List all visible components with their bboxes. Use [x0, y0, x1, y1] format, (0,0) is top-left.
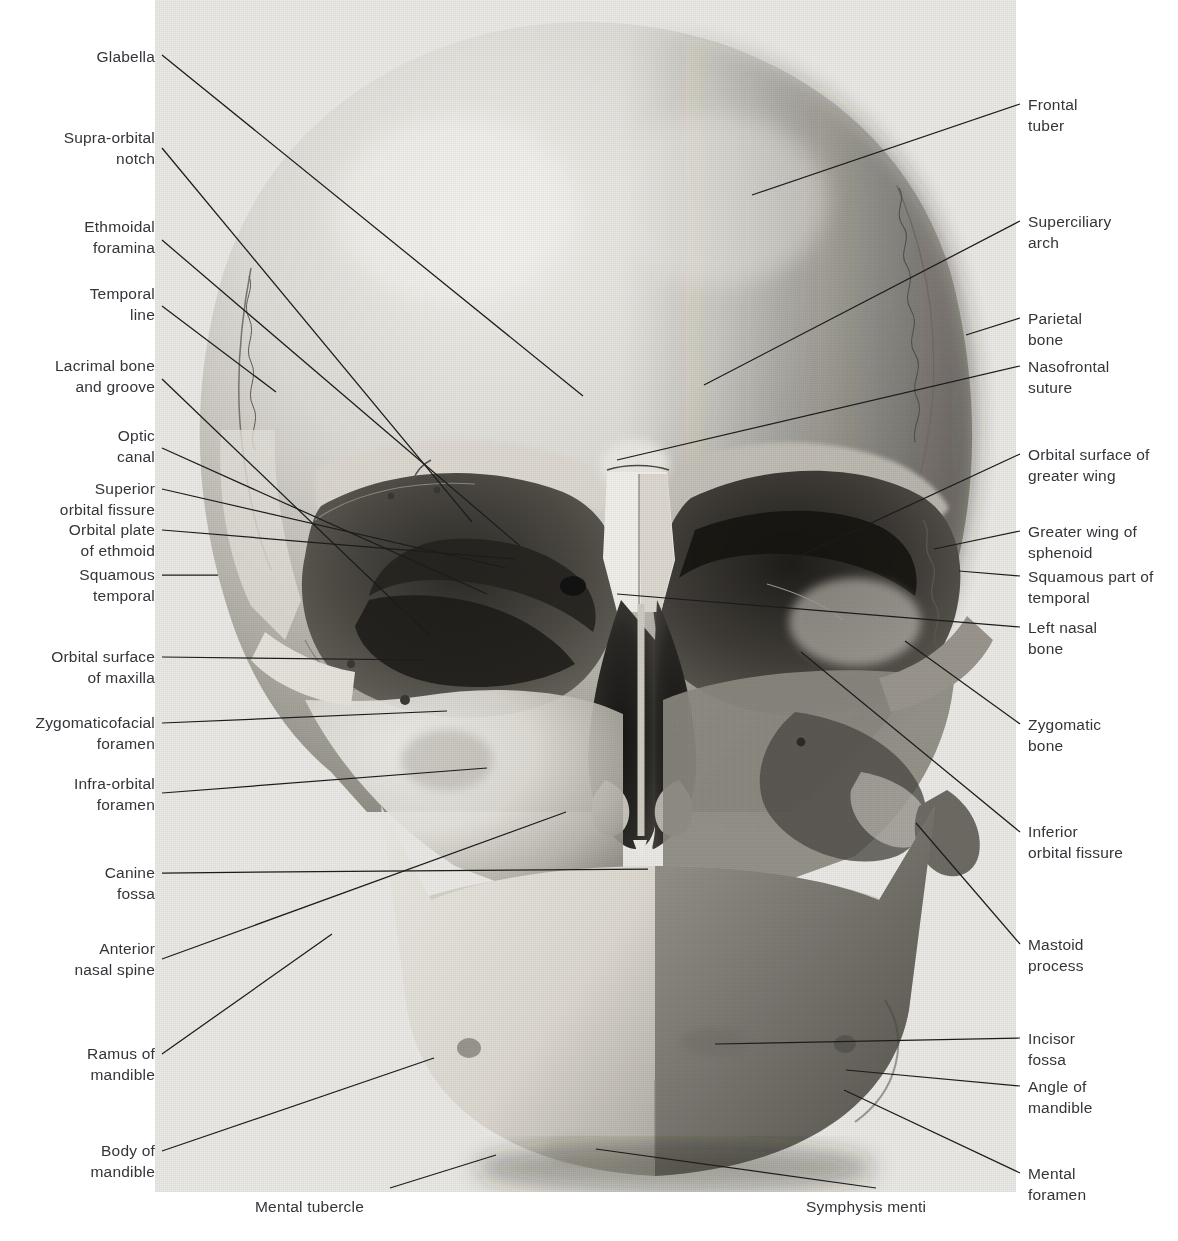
skull-photograph: [155, 0, 1016, 1192]
label-left-nasal-bone: Left nasal bone: [1028, 617, 1097, 659]
label-ramus-of-mandible: Ramus of mandible: [87, 1043, 155, 1085]
label-greater-wing-of-sphenoid: Greater wing of sphenoid: [1028, 521, 1137, 563]
label-frontal-tuber: Frontal tuber: [1028, 94, 1078, 136]
label-inferior-orbital-fissure: Inferior orbital fissure: [1028, 821, 1123, 863]
label-parietal-bone: Parietal bone: [1028, 308, 1082, 350]
label-lacrimal-bone-and-groove: Lacrimal bone and groove: [55, 355, 155, 397]
label-orbital-surface-of-greater-wing: Orbital surface of greater wing: [1028, 444, 1150, 486]
label-supra-orbital-notch: Supra-orbital notch: [64, 127, 155, 169]
label-infra-orbital-foramen: Infra-orbital foramen: [74, 773, 155, 815]
label-zygomaticofacial-foramen: Zygomaticofacial foramen: [36, 712, 156, 754]
photo-grain: [155, 0, 1016, 1192]
label-optic-canal: Optic canal: [117, 425, 155, 467]
label-incisor-fossa: Incisor fossa: [1028, 1028, 1075, 1070]
label-mental-foramen: Mental foramen: [1028, 1163, 1086, 1205]
label-zygomatic-bone: Zygomatic bone: [1028, 714, 1101, 756]
label-anterior-nasal-spine: Anterior nasal spine: [74, 938, 155, 980]
label-symphysis-menti: Symphysis menti: [806, 1196, 926, 1217]
label-nasofrontal-suture: Nasofrontal suture: [1028, 356, 1109, 398]
label-orbital-plate-of-ethmoid: Orbital plate of ethmoid: [69, 519, 155, 561]
label-superciliary-arch: Superciliary arch: [1028, 211, 1111, 253]
label-orbital-surface-of-maxilla: Orbital surface of maxilla: [51, 646, 155, 688]
anatomical-figure: GlabellaSupra-orbital notchEthmoidal for…: [0, 0, 1178, 1241]
label-glabella: Glabella: [97, 46, 155, 67]
label-body-of-mandible: Body of mandible: [90, 1140, 155, 1182]
label-angle-of-mandible: Angle of mandible: [1028, 1076, 1093, 1118]
label-mental-tubercle: Mental tubercle: [255, 1196, 364, 1217]
label-canine-fossa: Canine fossa: [105, 862, 155, 904]
label-temporal-line: Temporal line: [90, 283, 155, 325]
label-ethmoidal-foramina: Ethmoidal foramina: [84, 216, 155, 258]
label-squamous-part-of-temporal: Squamous part of temporal: [1028, 566, 1154, 608]
label-squamous-temporal: Squamous temporal: [79, 564, 155, 606]
label-superior-orbital-fissure: Superior orbital fissure: [60, 478, 155, 520]
label-mastoid-process: Mastoid process: [1028, 934, 1084, 976]
